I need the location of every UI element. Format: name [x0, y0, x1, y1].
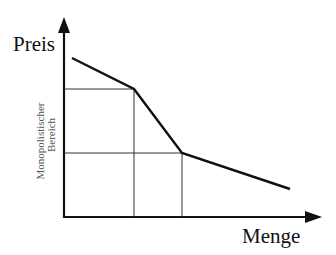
demand-curve: [72, 58, 290, 189]
x-axis-label: Menge: [242, 224, 300, 248]
y-axis-arrowhead-icon: [58, 17, 70, 33]
kinked-demand-diagram: Preis Menge Monopolistischer Bereich: [0, 0, 336, 255]
region-label-line2: Bereich: [45, 117, 57, 152]
y-axis-label: Preis: [13, 32, 55, 56]
x-axis-arrowhead-icon: [305, 211, 322, 223]
